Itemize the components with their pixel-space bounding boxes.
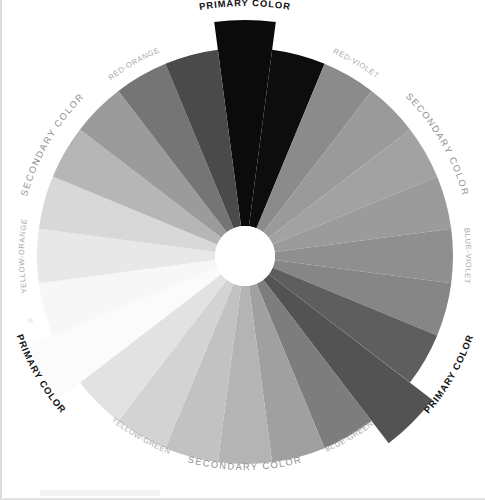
page-footer-smudge <box>40 490 160 496</box>
wheel-center-hub <box>215 226 275 286</box>
color-wheel-figure: PRIMARY COLORPRIMARY COLORPRIMARY COLORS… <box>0 0 485 500</box>
page-left-edge <box>0 0 2 500</box>
scan-speck <box>28 318 33 323</box>
color-wheel-svg: PRIMARY COLORPRIMARY COLORPRIMARY COLORS… <box>0 0 485 500</box>
